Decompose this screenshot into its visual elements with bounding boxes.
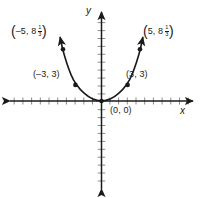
label-point-neg3: (–3, 3)	[33, 70, 60, 79]
label-neg5-whole: 8	[31, 27, 36, 36]
label-origin: (0, 0)	[110, 106, 132, 115]
parabola-curve-left	[60, 38, 101, 102]
point-origin	[99, 99, 104, 104]
label-neg5-close: )	[42, 23, 47, 39]
label-pos5-close: )	[169, 23, 174, 39]
graph-figure: (–5, 813) (5, 813) (–3, 3) (3, 3) (0, 0)…	[0, 0, 203, 198]
x-axis-label: x	[180, 105, 185, 116]
label-pos5-mixed: 813	[158, 25, 169, 38]
label-pos5-whole: 8	[158, 27, 163, 36]
label-point-pos3: (3, 3)	[126, 70, 148, 79]
label-neg5-x: –5,	[16, 26, 29, 36]
label-point-pos5: (5, 813)	[143, 24, 174, 38]
point-pos3	[125, 83, 130, 88]
point-pos5	[138, 47, 143, 52]
label-neg5-mixed: 813	[31, 25, 42, 38]
y-axis-label: y	[86, 5, 91, 16]
label-pos5-x: 5,	[148, 26, 156, 36]
point-neg5	[61, 47, 66, 52]
point-neg3	[73, 83, 78, 88]
label-point-neg5: (–5, 813)	[11, 24, 47, 38]
